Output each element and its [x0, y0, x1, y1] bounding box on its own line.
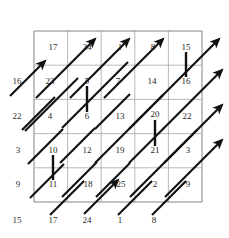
cell-number: 11 — [49, 180, 58, 189]
cell-number: 15 — [182, 43, 191, 52]
arrow-24 — [165, 140, 222, 197]
cell-number: 1 — [118, 43, 123, 52]
bottom-edge-label: 8 — [152, 216, 157, 225]
left-edge-label: 9 — [16, 180, 21, 189]
cell-number: 18 — [84, 180, 93, 189]
cell-number: 17 — [49, 43, 58, 52]
cell-number: 21 — [151, 146, 160, 155]
cell-number: 10 — [49, 146, 58, 155]
cell-number: 25 — [117, 180, 126, 189]
left-edge-label: 16 — [13, 77, 22, 86]
cell-number: 24 — [83, 43, 92, 52]
cell-number: 19 — [116, 146, 125, 155]
cell-number: 6 — [85, 112, 90, 121]
arrow-4 — [28, 129, 63, 164]
cell-number: 5 — [85, 77, 90, 86]
cell-number: 3 — [186, 146, 191, 155]
bottom-edge-label: 17 — [49, 216, 58, 225]
left-edge-label: 22 — [13, 112, 22, 121]
cell-number: 12 — [83, 146, 92, 155]
left-edge-label: 15 — [13, 216, 22, 225]
arrow-5 — [30, 164, 64, 198]
arrow-3 — [25, 78, 78, 131]
cell-number: 22 — [183, 112, 192, 121]
left-edge-label: 3 — [16, 146, 21, 155]
cell-number: 7 — [116, 77, 121, 86]
arrow-23 — [164, 105, 222, 163]
cell-number: 20 — [151, 110, 160, 119]
cell-number: 2 — [153, 180, 158, 189]
cell-number: 8 — [151, 43, 156, 52]
bottom-edge-label: 24 — [83, 216, 92, 225]
cell-number: 23 — [46, 77, 55, 86]
cell-number: 4 — [48, 112, 53, 121]
lattice-diagram: 1724181523571416461320221012192131118252… — [0, 0, 229, 238]
cell-number: 16 — [182, 77, 191, 86]
cell-number: 9 — [186, 180, 191, 189]
diagram-canvas — [0, 0, 229, 238]
bottom-edge-label: 1 — [118, 216, 123, 225]
cell-number: 13 — [116, 112, 125, 121]
cell-number: 14 — [148, 77, 157, 86]
